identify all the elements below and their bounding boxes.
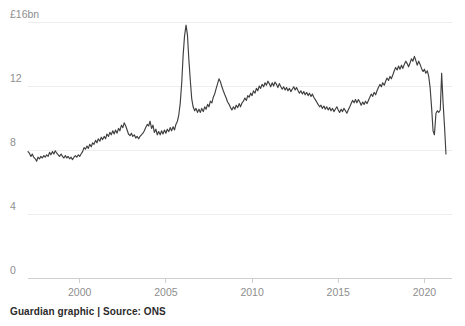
line-chart: 04812£16bn 20002005201020152020 xyxy=(0,0,465,300)
y-tick-label-8: 8 xyxy=(10,136,16,148)
x-axis-ticks xyxy=(80,278,425,283)
y-tick-label-12: 12 xyxy=(10,72,22,84)
x-tick-label-2020: 2020 xyxy=(413,286,437,298)
y-tick-label-4: 4 xyxy=(10,200,16,212)
x-tick-label-2010: 2010 xyxy=(240,286,264,298)
x-tick-label-2000: 2000 xyxy=(68,286,92,298)
x-axis-labels: 20002005201020152020 xyxy=(68,286,436,298)
chart-container: 04812£16bn 20002005201020152020 Guardian… xyxy=(0,0,465,326)
y-tick-label-16: £16bn xyxy=(10,8,39,20)
y-axis-labels: 04812£16bn xyxy=(10,8,39,276)
x-tick-label-2015: 2015 xyxy=(327,286,351,298)
x-tick-label-2005: 2005 xyxy=(154,286,178,298)
y-tick-label-0: 0 xyxy=(10,264,16,276)
gridlines xyxy=(28,22,452,278)
data-series-line xyxy=(28,25,446,161)
chart-credit: Guardian graphic | Source: ONS xyxy=(10,306,166,317)
